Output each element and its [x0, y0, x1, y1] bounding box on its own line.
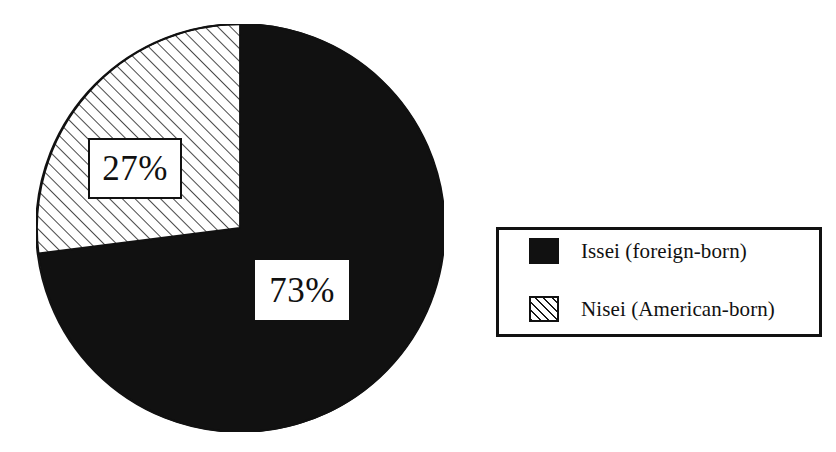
- pie-chart: [36, 24, 444, 432]
- legend-label-nisei: Nisei (American-born): [581, 297, 775, 322]
- slice-label-issei: 73%: [255, 260, 349, 320]
- slice-label-nisei: 27%: [88, 138, 182, 199]
- diagonal-hatch-swatch-icon: [529, 296, 559, 322]
- solid-black-swatch-icon: [529, 238, 559, 264]
- figure-title: [0, 0, 470, 7]
- pie-chart-svg: [36, 24, 444, 432]
- legend-item-issei: Issei (foreign-born): [529, 238, 747, 264]
- legend-item-nisei: Nisei (American-born): [529, 296, 775, 322]
- legend-label-issei: Issei (foreign-born): [581, 239, 747, 264]
- pie-chart-figure: 27% 73% Issei (foreign-born) Nisei (Amer…: [0, 0, 836, 452]
- legend: Issei (foreign-born) Nisei (American-bor…: [496, 227, 822, 337]
